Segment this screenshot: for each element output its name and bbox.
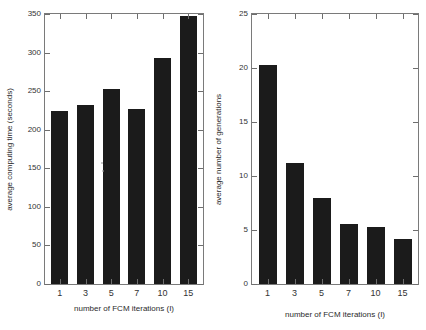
figure-container: average computing time (seconds) 0501001… xyxy=(0,0,426,330)
x-tick-label-5: 5 xyxy=(319,288,324,298)
bar-3 xyxy=(77,105,94,284)
y-tick-mark xyxy=(252,14,257,15)
bar-15 xyxy=(394,239,412,284)
bar-10 xyxy=(154,58,171,284)
y-tick-label: 25 xyxy=(239,10,252,18)
x-tick-label-1: 1 xyxy=(265,288,270,298)
y-tick-mark xyxy=(45,168,50,169)
bar-7 xyxy=(340,224,358,284)
x-tick-mark-top xyxy=(376,14,377,19)
y-tick-mark xyxy=(45,53,50,54)
y-tick-mark-right xyxy=(198,284,203,285)
y-tick-label: 100 xyxy=(28,203,45,211)
x-tick-label-7: 7 xyxy=(134,288,139,298)
y-axis-label-left: average computing time (seconds) xyxy=(3,13,15,285)
y-tick-mark-right xyxy=(198,130,203,131)
x-tick-label-3: 3 xyxy=(292,288,297,298)
y-tick-mark xyxy=(45,207,50,208)
x-tick-mark xyxy=(111,279,112,284)
x-tick-mark xyxy=(163,279,164,284)
plot-area-left: 050100150200250300350 13571015 xyxy=(44,13,204,285)
y-tick-mark-right xyxy=(198,207,203,208)
x-tick-mark xyxy=(60,279,61,284)
y-tick-label: 50 xyxy=(32,241,45,249)
x-tick-mark xyxy=(322,279,323,284)
y-tick-mark-right xyxy=(413,68,418,69)
bar-5 xyxy=(313,198,331,284)
image-artifact xyxy=(102,170,104,172)
y-tick-mark-right xyxy=(198,14,203,15)
x-tick-mark xyxy=(86,279,87,284)
plot-area-right: 0510152025 13571015 xyxy=(251,13,419,285)
y-tick-mark-right xyxy=(198,91,203,92)
y-tick-mark-right xyxy=(198,168,203,169)
y-tick-mark-right xyxy=(413,176,418,177)
x-tick-mark-top xyxy=(268,14,269,19)
x-tick-mark-top xyxy=(188,14,189,19)
x-tick-label-15: 15 xyxy=(183,288,193,298)
y-tick-mark-right xyxy=(413,122,418,123)
y-tick-label: 200 xyxy=(28,126,45,134)
bar-series-left xyxy=(45,14,203,284)
y-tick-mark xyxy=(252,176,257,177)
x-tick-mark-top xyxy=(403,14,404,19)
x-tick-label-7: 7 xyxy=(346,288,351,298)
x-tick-mark xyxy=(295,279,296,284)
y-tick-mark xyxy=(45,284,50,285)
y-tick-mark xyxy=(252,122,257,123)
image-artifact xyxy=(101,162,103,164)
x-tick-label-10: 10 xyxy=(157,288,167,298)
y-tick-mark-right xyxy=(413,230,418,231)
x-tick-label-1: 1 xyxy=(57,288,62,298)
bar-10 xyxy=(367,227,385,284)
y-tick-label: 10 xyxy=(239,172,252,180)
x-tick-label-10: 10 xyxy=(370,288,380,298)
y-tick-mark-right xyxy=(413,14,418,15)
y-tick-label: 150 xyxy=(28,164,45,172)
x-tick-mark-top xyxy=(349,14,350,19)
x-axis-label-left: number of FCM iterations (I) xyxy=(44,304,204,313)
bar-series-right xyxy=(252,14,418,284)
bar-15 xyxy=(180,16,197,284)
y-tick-mark xyxy=(252,68,257,69)
x-tick-mark-top xyxy=(163,14,164,19)
x-tick-mark xyxy=(403,279,404,284)
y-tick-mark xyxy=(252,284,257,285)
x-tick-mark-top xyxy=(295,14,296,19)
bar-5 xyxy=(103,89,120,284)
y-tick-label: 5 xyxy=(244,226,252,234)
y-tick-label: 15 xyxy=(239,118,252,126)
bar-1 xyxy=(259,65,277,284)
y-axis-label-right: average number of generations xyxy=(213,13,225,285)
bar-3 xyxy=(286,163,304,284)
y-tick-mark xyxy=(45,91,50,92)
y-tick-label: 250 xyxy=(28,87,45,95)
y-tick-label: 0 xyxy=(37,280,45,288)
bar-1 xyxy=(51,111,68,284)
y-tick-mark xyxy=(45,245,50,246)
x-tick-label-3: 3 xyxy=(83,288,88,298)
x-axis-label-right: number of FCM iterations (I) xyxy=(251,310,419,319)
y-tick-label: 300 xyxy=(28,49,45,57)
x-tick-mark-top xyxy=(86,14,87,19)
y-tick-label: 0 xyxy=(244,280,252,288)
y-tick-label: 350 xyxy=(28,10,45,18)
x-tick-mark xyxy=(137,279,138,284)
x-tick-mark xyxy=(268,279,269,284)
y-tick-mark xyxy=(252,230,257,231)
y-tick-mark xyxy=(45,130,50,131)
y-tick-mark-right xyxy=(413,284,418,285)
x-tick-mark-top xyxy=(111,14,112,19)
x-tick-label-15: 15 xyxy=(397,288,407,298)
y-tick-mark-right xyxy=(198,53,203,54)
x-tick-mark xyxy=(376,279,377,284)
y-tick-mark xyxy=(45,14,50,15)
chart-panel-right: average number of generations 0510152025… xyxy=(213,0,426,330)
bar-7 xyxy=(128,109,145,284)
x-tick-mark-top xyxy=(137,14,138,19)
y-tick-label: 20 xyxy=(239,64,252,72)
x-tick-mark xyxy=(188,279,189,284)
x-tick-mark-top xyxy=(60,14,61,19)
chart-panel-left: average computing time (seconds) 0501001… xyxy=(0,0,213,330)
x-tick-mark xyxy=(349,279,350,284)
